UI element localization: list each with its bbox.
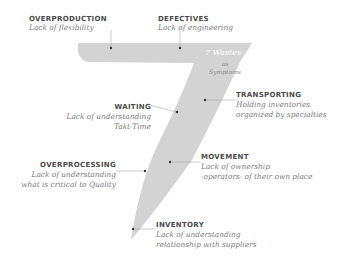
movement-desc-2: -operators- of their own place	[201, 172, 312, 182]
overprocessing-title: OVERPROCESSING	[40, 160, 116, 170]
overproduction-desc: Lack of flexibility	[29, 23, 94, 33]
inventory-title: INVENTORY	[156, 220, 204, 230]
defectives-desc: Lack of engineering	[158, 23, 233, 33]
transporting-desc-1: Holding inventories	[236, 100, 310, 110]
inventory-desc-1: Lack of understanding	[156, 230, 241, 240]
overprocessing-desc-1: Lack of understanding	[32, 170, 117, 180]
waiting-desc-1: Lack of understanding	[67, 112, 152, 122]
movement-desc-1: Lack of ownership	[201, 162, 270, 172]
center-subtitle-symptoms: Symptoms	[195, 68, 255, 75]
inventory-desc-2: relationship with suppliers	[156, 240, 256, 250]
overprocessing-desc-2: what is critical to Quality	[21, 180, 116, 190]
waiting-desc-2: Takt-Time	[114, 122, 151, 132]
waiting-title: WAITING	[114, 102, 151, 112]
transporting-desc-2: organized by specialties	[236, 110, 327, 120]
transporting-title: TRANSPORTING	[236, 90, 301, 100]
center-subtitle-as: as	[200, 60, 250, 67]
center-title: 7 Wastes	[188, 48, 258, 57]
movement-title: MOVEMENT	[201, 152, 249, 162]
